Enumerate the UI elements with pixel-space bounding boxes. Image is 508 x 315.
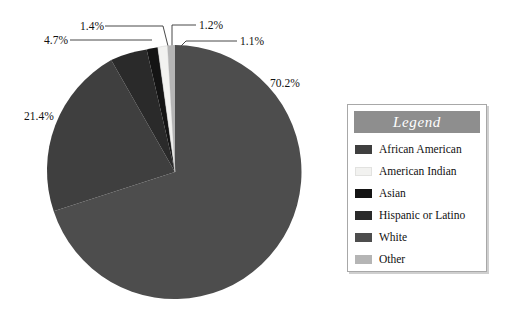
legend-swatch-american-indian: [355, 167, 372, 176]
legend-item-asian[interactable]: Asian: [355, 182, 481, 204]
legend-label-african-american: African American: [379, 143, 462, 155]
legend-item-other[interactable]: Other: [355, 248, 481, 270]
legend-swatch-asian: [355, 189, 372, 198]
legend-swatch-african-american: [355, 145, 372, 154]
legend-item-white[interactable]: White: [355, 226, 481, 248]
label-white: 70.2%: [270, 77, 300, 89]
label-hispanic: 4.7%: [44, 34, 68, 46]
label-other: 1.1%: [240, 35, 264, 47]
legend-swatch-hispanic-or-latino: [355, 211, 372, 220]
label-asian: 1.4%: [80, 20, 104, 32]
legend-swatch-white: [355, 233, 372, 242]
legend-title: Legend: [393, 114, 441, 131]
legend-box: Legend African American American Indian …: [347, 104, 487, 272]
legend-label-hispanic-or-latino: Hispanic or Latino: [379, 209, 465, 221]
legend-item-hispanic-or-latino[interactable]: Hispanic or Latino: [355, 204, 481, 226]
label-american-indian: 1.2%: [199, 19, 223, 31]
leader-line-asian: [105, 26, 168, 46]
legend-swatch-other: [355, 255, 372, 264]
legend-label-white: White: [379, 231, 407, 243]
legend-item-american-indian[interactable]: American Indian: [355, 160, 481, 182]
legend-item-african-american[interactable]: African American: [355, 138, 481, 160]
legend-header: Legend: [354, 111, 480, 133]
legend-label-american-indian: American Indian: [379, 165, 457, 177]
legend-items: African American American Indian Asian H…: [355, 138, 481, 267]
legend-label-other: Other: [379, 253, 405, 265]
label-african-american: 21.4%: [24, 110, 54, 122]
pie-slices: [47, 45, 302, 299]
legend-label-asian: Asian: [379, 187, 406, 199]
